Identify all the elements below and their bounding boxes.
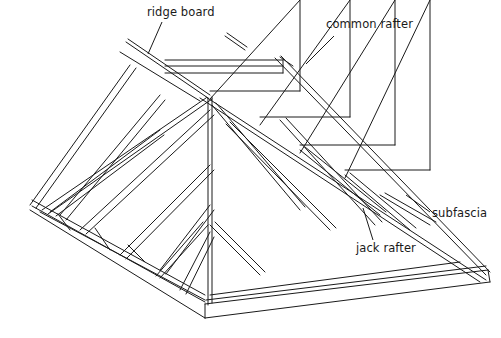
label-ridge-board: ridge board <box>147 5 215 19</box>
label-jack-rafter: jack rafter <box>356 241 416 255</box>
roof-frame-lines <box>30 0 490 318</box>
label-leader-lines <box>148 22 430 240</box>
label-common-rafter: common rafter <box>326 17 413 31</box>
hip-roof-framing-diagram <box>0 0 501 338</box>
label-subfascia: subfascia <box>432 206 487 220</box>
